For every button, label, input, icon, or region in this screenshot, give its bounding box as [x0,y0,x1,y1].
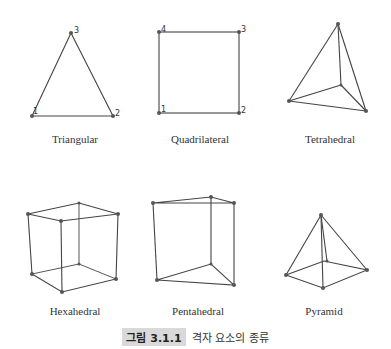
hexahedral-element [28,203,118,292]
figure-caption: 그림 3.1.1격자 요소의 종류 [0,328,391,346]
element-diagrams: 3 1 2 1 2 3 4 [0,0,391,349]
quadrilateral-element [159,32,239,113]
figure-number-badge: 그림 3.1.1 [122,328,185,346]
pentahedral-label: Pentahedral [133,305,263,317]
triangular-node-3: 3 [74,26,79,35]
triangular-node-1: 1 [33,107,38,116]
pentahedral-element [153,197,234,285]
triangular-element [32,33,113,116]
figure-caption-text: 격자 요소의 종류 [192,332,269,345]
pyramid-element [286,215,367,288]
quadrilateral-label: Quadrilateral [135,133,265,145]
hexahedral-label: Hexahedral [10,305,140,317]
triangular-node-2: 2 [115,109,120,118]
pyramid-label: Pyramid [259,305,389,317]
tetrahedral-element [289,24,366,111]
quad-node-4: 4 [161,25,166,34]
quad-node-1: 1 [161,105,166,114]
tetrahedral-label: Tetrahedral [265,133,391,145]
quad-node-2: 2 [241,106,246,115]
quad-node-3: 3 [241,25,246,34]
triangular-label: Triangular [10,133,140,145]
mesh-element-types-figure: 3 1 2 1 2 3 4 Triangular Quadrilateral T… [0,0,391,349]
